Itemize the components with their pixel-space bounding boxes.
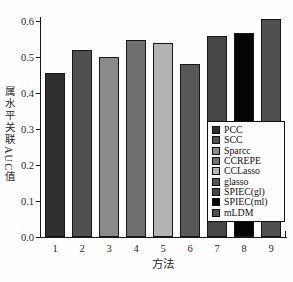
- legend-swatch: [212, 147, 220, 155]
- legend-item-mldm: mLDM: [212, 208, 280, 218]
- x-tick-label: 4: [126, 242, 146, 255]
- x-tick-label: 3: [99, 242, 119, 255]
- y-tick-label: 0.3: [6, 123, 34, 136]
- legend-swatch: [212, 178, 220, 186]
- legend-label: SPIEC(ml): [224, 197, 268, 207]
- legend-swatch: [212, 167, 220, 175]
- bar-scc: [72, 50, 92, 237]
- legend-swatch: [212, 209, 220, 217]
- x-tick-label: 8: [234, 242, 254, 255]
- bar-glasso: [180, 64, 200, 237]
- legend-swatch: [212, 188, 220, 196]
- legend-item-pcc: PCC: [212, 125, 280, 135]
- y-tick-label: 0.1: [6, 195, 34, 208]
- x-tick-label: 9: [261, 242, 281, 255]
- x-axis-end-tick: [285, 231, 286, 237]
- legend-swatch: [212, 126, 220, 134]
- y-tick-label: 0.2: [6, 159, 34, 172]
- x-tick-label: 2: [72, 242, 92, 255]
- x-tick-label: 7: [207, 242, 227, 255]
- y-tick-label: 0.4: [6, 87, 34, 100]
- y-tick-label: 0.5: [6, 51, 34, 64]
- bar-sparcc: [99, 57, 119, 237]
- y-axis-line: [40, 17, 41, 238]
- bar-ccrepe: [126, 40, 146, 237]
- legend: PCCSCCSparccCCREPECCLassoglassoSPIEC(gl)…: [207, 121, 285, 222]
- legend-swatch: [212, 198, 220, 206]
- x-tick-label: 5: [153, 242, 173, 255]
- legend-swatch: [212, 136, 220, 144]
- bar-pcc: [45, 73, 65, 237]
- x-axis-label: 方法: [103, 255, 223, 271]
- y-tick-label: 0.6: [6, 15, 34, 28]
- legend-swatch: [212, 157, 220, 165]
- bar-chart-figure: 属水平关联AUC值 0.00.10.20.30.40.50.6 12345678…: [0, 0, 293, 282]
- legend-label: CCLasso: [224, 166, 260, 176]
- legend-label: SCC: [224, 135, 243, 145]
- x-axis-line: [40, 237, 287, 238]
- x-tick-label: 1: [45, 242, 65, 255]
- x-tick-label: 6: [180, 242, 200, 255]
- y-tick-label: 0.0: [6, 231, 34, 244]
- legend-label: mLDM: [224, 208, 253, 218]
- bar-cclasso: [153, 43, 173, 237]
